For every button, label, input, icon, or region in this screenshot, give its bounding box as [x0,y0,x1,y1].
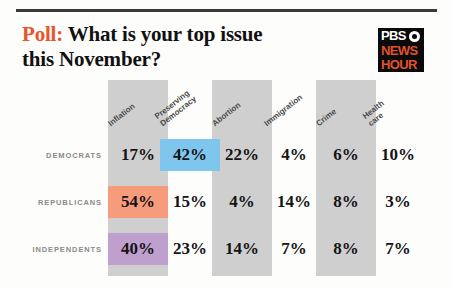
cell-democrats-health-care: 10% [368,139,428,171]
cell-republicans-abortion: 4% [212,186,272,218]
cell-democrats-immigration: 4% [264,139,324,171]
cell-democrats-inflation: 17% [108,139,168,171]
column-header-abortion: Abortion [212,80,272,132]
cell-independents-preserving-democracy: 23% [160,233,220,265]
column-header-preserving-democracy: PreservingDemocracy [160,80,220,132]
row-label-republicans: REPUBLICANS [10,198,102,207]
cell-republicans-health-care: 3% [368,186,428,218]
cell-republicans-preserving-democracy: 15% [160,186,220,218]
page-title: Poll: What is your top issue this Novemb… [22,22,322,72]
column-header-label: Crime [314,107,337,128]
cell-republicans-inflation: 54% [108,186,168,218]
cell-democrats-abortion: 22% [212,139,272,171]
column-header-crime: Crime [316,80,376,132]
cell-independents-abortion: 14% [212,233,272,265]
column-header-label: Inflation [106,102,136,128]
table-row: REPUBLICANS 54% 15% 4% 14% 8% 3% [0,182,453,230]
column-header-immigration: Immigration [264,80,324,132]
poll-results-table: Inflation PreservingDemocracy Abortion I… [0,80,453,280]
row-label-independents: INDEPENDENTS [10,245,102,254]
title-line-1: Poll: What is your top issue [22,22,322,47]
cell-independents-crime: 8% [316,233,376,265]
top-divider-rule [16,9,437,12]
poll-graphic-card: Poll: What is your top issue this Novemb… [0,0,453,288]
column-header-label: Immigration [262,93,304,128]
logo-hour-text: HOUR [378,58,424,72]
column-header-label: Abortion [210,100,242,128]
cell-democrats-crime: 6% [316,139,376,171]
column-header-inflation: Inflation [108,80,168,132]
logo-news-text: NEWS [378,44,424,58]
cell-independents-immigration: 7% [264,233,324,265]
table-row: DEMOCRATS 17% 42% 22% 4% 6% 10% [0,135,453,183]
cell-republicans-crime: 8% [316,186,376,218]
cell-democrats-preserving-democracy: 42% [160,139,220,171]
column-header-health-care: Healthcare [368,80,428,132]
row-label-democrats: DEMOCRATS [10,151,102,160]
pbs-newshour-logo: PBS NEWS HOUR [378,28,424,72]
cell-independents-health-care: 7% [368,233,428,265]
cell-republicans-immigration: 14% [264,186,324,218]
title-line-2: this November? [22,47,322,72]
pbs-circle-icon [409,31,420,42]
title-text-1: What is your top issue [68,22,263,46]
cell-independents-inflation: 40% [108,233,168,265]
poll-label: Poll: [22,22,63,46]
table-row: INDEPENDENTS 40% 23% 14% 7% 8% 7% [0,229,453,277]
